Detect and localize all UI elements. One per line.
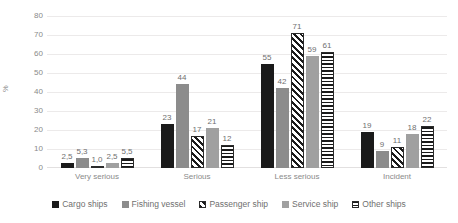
bar-value-label: 9 (380, 140, 384, 149)
legend-swatch-icon (52, 201, 59, 208)
bar-value-label: 55 (263, 53, 272, 62)
bar-slot: 21 (206, 16, 219, 168)
bar[interactable] (161, 124, 174, 168)
bar[interactable] (61, 163, 74, 168)
bar[interactable] (121, 158, 134, 168)
legend-item[interactable]: Service ship (282, 199, 338, 209)
bar-value-label: 59 (308, 45, 317, 54)
bar-slot: 11 (391, 16, 404, 168)
legend-label: Cargo ships (62, 199, 107, 209)
bar-value-label: 19 (363, 121, 372, 130)
bar-group: 2344172112 (147, 16, 247, 168)
x-axis-category-label: Less serious (247, 172, 347, 181)
bar[interactable] (261, 64, 274, 169)
bar-group-bars: 2,55,31,02,55,5 (47, 16, 147, 168)
bar[interactable] (106, 163, 119, 168)
legend-item[interactable]: Other ships (352, 199, 405, 209)
bar-value-label: 42 (278, 77, 287, 86)
bar-slot: 23 (161, 16, 174, 168)
bar-group-bars: 199111822 (347, 16, 447, 168)
bar[interactable] (376, 151, 389, 168)
bar-value-label: 44 (178, 73, 187, 82)
y-axis-tick-label: 80 (3, 12, 43, 20)
bar[interactable] (406, 134, 419, 168)
bar-slot: 2,5 (61, 16, 74, 168)
bar[interactable] (176, 84, 189, 168)
bar-value-label: 61 (323, 41, 332, 50)
bar[interactable] (291, 33, 304, 168)
x-axis-category-label: Serious (147, 172, 247, 181)
bar[interactable] (206, 128, 219, 168)
legend-label: Service ship (292, 199, 338, 209)
bar-slot: 5,3 (76, 16, 89, 168)
grouped-bar-chart: % 01020304050607080 2,55,31,02,55,523441… (0, 0, 458, 223)
x-axis-category-label: Incident (347, 172, 447, 181)
bar-value-label: 2,5 (61, 152, 72, 161)
bar-value-label: 5,3 (76, 147, 87, 156)
bar[interactable] (191, 136, 204, 168)
bar[interactable] (276, 88, 289, 168)
bar-slot: 2,5 (106, 16, 119, 168)
bar-slot: 61 (321, 16, 334, 168)
bar-value-label: 1,0 (91, 155, 102, 164)
bar-slot: 1,0 (91, 16, 104, 168)
bar-value-label: 22 (423, 115, 432, 124)
bar[interactable] (221, 145, 234, 168)
bar-slot: 71 (291, 16, 304, 168)
bar-value-label: 2,5 (106, 152, 117, 161)
y-axis-tick-label: 60 (3, 50, 43, 58)
bar-value-label: 5,5 (121, 147, 132, 156)
bar-group-bars: 2344172112 (147, 16, 247, 168)
legend-swatch-icon (282, 201, 289, 208)
bar-group: 2,55,31,02,55,5 (47, 16, 147, 168)
bar-value-label: 18 (408, 123, 417, 132)
bar[interactable] (421, 126, 434, 168)
bar[interactable] (321, 52, 334, 168)
y-axis-ticks: 01020304050607080 (0, 16, 43, 168)
bar-value-label: 11 (393, 136, 401, 145)
bar[interactable] (306, 56, 319, 168)
y-axis-tick-label: 10 (3, 145, 43, 153)
bar-slot: 18 (406, 16, 419, 168)
bar-value-label: 21 (208, 117, 217, 126)
bar[interactable] (391, 147, 404, 168)
legend-label: Other ships (362, 199, 405, 209)
bar-value-label: 71 (293, 22, 302, 31)
legend-label: Fishing vessel (132, 199, 186, 209)
y-axis-tick-label: 50 (3, 69, 43, 77)
bar-slot: 17 (191, 16, 204, 168)
y-axis-tick-label: 20 (3, 126, 43, 134)
y-axis-tick-label: 70 (3, 31, 43, 39)
bar[interactable] (91, 166, 104, 169)
bar[interactable] (76, 158, 89, 168)
bar-group: 199111822 (347, 16, 447, 168)
bar-value-label: 17 (193, 125, 202, 134)
bar-group-bars: 5542715961 (247, 16, 347, 168)
bar-slot: 55 (261, 16, 274, 168)
bar-groups: 2,55,31,02,55,52344172112554271596119911… (47, 16, 447, 168)
legend-label: Passenger ship (209, 199, 268, 209)
x-axis-category-label: Very serious (47, 172, 147, 181)
bar-value-label: 12 (223, 134, 232, 143)
chart-legend: Cargo shipsFishing vesselPassenger shipS… (0, 199, 458, 209)
bar-value-label: 23 (163, 113, 172, 122)
bar-group: 5542715961 (247, 16, 347, 168)
bar-slot: 5,5 (121, 16, 134, 168)
bar-slot: 44 (176, 16, 189, 168)
bar-slot: 9 (376, 16, 389, 168)
bar-slot: 19 (361, 16, 374, 168)
legend-item[interactable]: Fishing vessel (122, 199, 186, 209)
bar[interactable] (361, 132, 374, 168)
y-axis-tick-label: 40 (3, 88, 43, 96)
bar-slot: 22 (421, 16, 434, 168)
legend-swatch-icon (199, 201, 206, 208)
legend-item[interactable]: Passenger ship (199, 199, 268, 209)
y-axis-tick-label: 0 (3, 164, 43, 172)
legend-item[interactable]: Cargo ships (52, 199, 107, 209)
legend-swatch-icon (352, 201, 359, 208)
bar-slot: 12 (221, 16, 234, 168)
legend-swatch-icon (122, 201, 129, 208)
y-axis-tick-label: 30 (3, 107, 43, 115)
plot-area: 2,55,31,02,55,52344172112554271596119911… (47, 16, 447, 168)
bar-slot: 42 (276, 16, 289, 168)
